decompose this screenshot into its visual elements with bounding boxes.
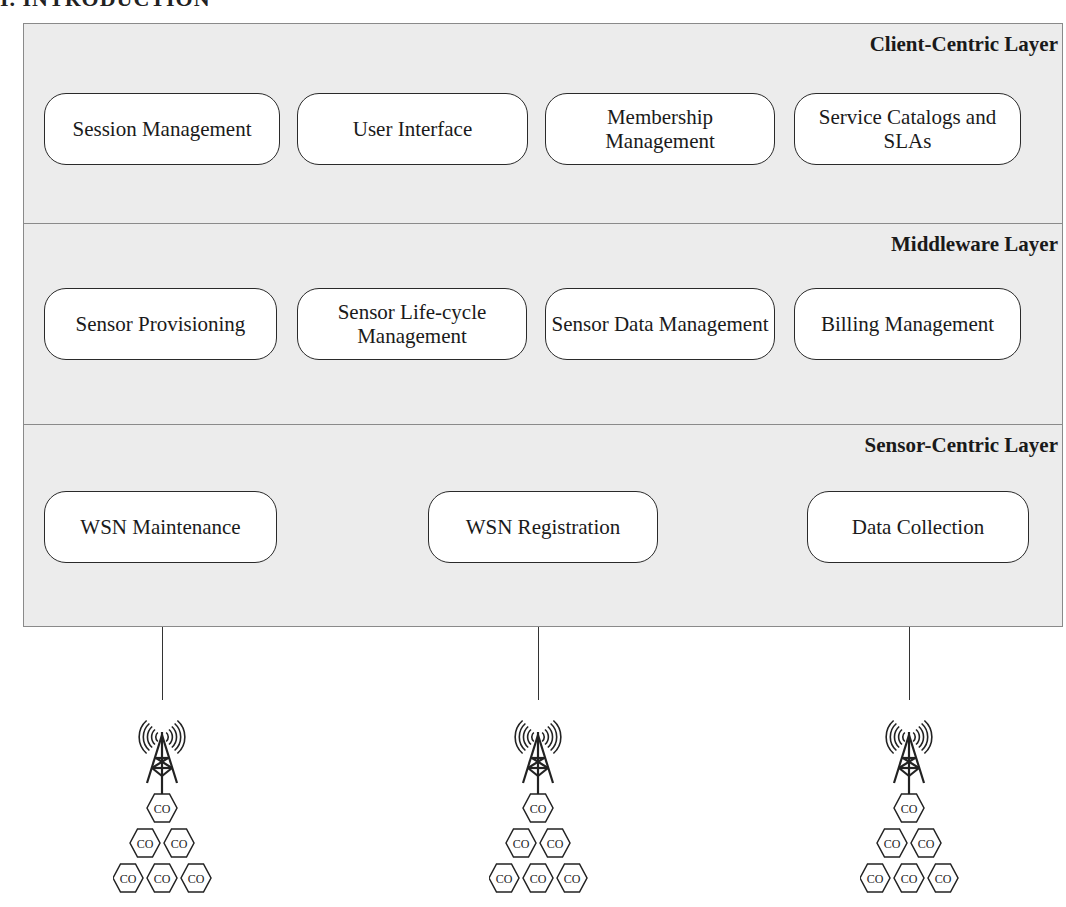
connector-line xyxy=(909,627,910,700)
sensor-node-label: CO xyxy=(935,872,952,886)
sensor-node-label: CO xyxy=(918,837,935,851)
session-management-box: Session Management xyxy=(44,93,280,165)
sensor-node-label: CO xyxy=(513,837,530,851)
tower-icon xyxy=(147,732,177,794)
sensor-network-1: COCOCOCOCOCO xyxy=(113,700,213,907)
data-collection-box: Data Collection xyxy=(807,491,1029,563)
sensor-node-icon: CO xyxy=(489,864,519,892)
client-centric-layer: Client-Centric Layer Session Management … xyxy=(23,23,1063,224)
sensor-node-label: CO xyxy=(154,872,171,886)
sensor-node-icon: CO xyxy=(147,794,177,822)
sensor-node-icon: CO xyxy=(506,829,536,857)
sensor-node-icon: CO xyxy=(523,864,553,892)
tower-icon xyxy=(523,732,553,794)
sensor-node-label: CO xyxy=(530,802,547,816)
sensor-node-icon: CO xyxy=(164,829,194,857)
sensor-node-label: CO xyxy=(867,872,884,886)
sensor-network-graphic: COCOCOCOCOCO xyxy=(113,700,213,907)
sensor-node-label: CO xyxy=(137,837,154,851)
sensor-node-icon: CO xyxy=(894,864,924,892)
connector-line xyxy=(538,627,539,700)
sensor-node-label: CO xyxy=(154,802,171,816)
tower-icon xyxy=(894,732,924,794)
wsn-maintenance-box: WSN Maintenance xyxy=(44,491,277,563)
sensor-node-icon: CO xyxy=(877,829,907,857)
sensor-node-icon: CO xyxy=(130,829,160,857)
sensor-node-label: CO xyxy=(120,872,137,886)
service-catalogs-box: Service Catalogs and SLAs xyxy=(794,93,1021,165)
user-interface-box: User Interface xyxy=(297,93,528,165)
section-heading-fragment: I. INTRODUCTION xyxy=(0,0,211,12)
sensor-node-label: CO xyxy=(564,872,581,886)
sensor-network-graphic: COCOCOCOCOCO xyxy=(860,700,960,907)
layer-title: Sensor-Centric Layer xyxy=(865,433,1058,458)
billing-management-box: Billing Management xyxy=(794,288,1021,360)
sensor-node-label: CO xyxy=(496,872,513,886)
sensor-network-2: COCOCOCOCOCO xyxy=(489,700,589,907)
sensor-node-label: CO xyxy=(530,872,547,886)
sensor-centric-layer: Sensor-Centric Layer WSN Maintenance WSN… xyxy=(23,424,1063,627)
sensor-node-icon: CO xyxy=(181,864,211,892)
middleware-layer: Middleware Layer Sensor Provisioning Sen… xyxy=(23,223,1063,425)
sensor-node-icon: CO xyxy=(523,794,553,822)
sensor-node-icon: CO xyxy=(928,864,958,892)
sensor-node-icon: CO xyxy=(894,794,924,822)
sensor-node-label: CO xyxy=(901,802,918,816)
sensor-node-label: CO xyxy=(884,837,901,851)
sensor-node-label: CO xyxy=(171,837,188,851)
sensor-node-label: CO xyxy=(547,837,564,851)
sensor-node-icon: CO xyxy=(860,864,890,892)
wsn-registration-box: WSN Registration xyxy=(428,491,658,563)
sensor-node-icon: CO xyxy=(540,829,570,857)
sensor-node-label: CO xyxy=(901,872,918,886)
membership-management-box: Membership Management xyxy=(545,93,775,165)
sensor-node-icon: CO xyxy=(147,864,177,892)
sensor-node-icon: CO xyxy=(557,864,587,892)
sensor-lifecycle-box: Sensor Life-cycle Management xyxy=(297,288,527,360)
layer-title: Middleware Layer xyxy=(891,232,1058,257)
sensor-node-label: CO xyxy=(188,872,205,886)
sensor-node-icon: CO xyxy=(113,864,143,892)
connector-line xyxy=(162,627,163,700)
sensor-node-icon: CO xyxy=(911,829,941,857)
sensor-network-graphic: COCOCOCOCOCO xyxy=(489,700,589,907)
sensor-provisioning-box: Sensor Provisioning xyxy=(44,288,277,360)
sensor-data-management-box: Sensor Data Management xyxy=(545,288,775,360)
sensor-network-3: COCOCOCOCOCO xyxy=(860,700,960,907)
layer-title: Client-Centric Layer xyxy=(870,32,1058,57)
